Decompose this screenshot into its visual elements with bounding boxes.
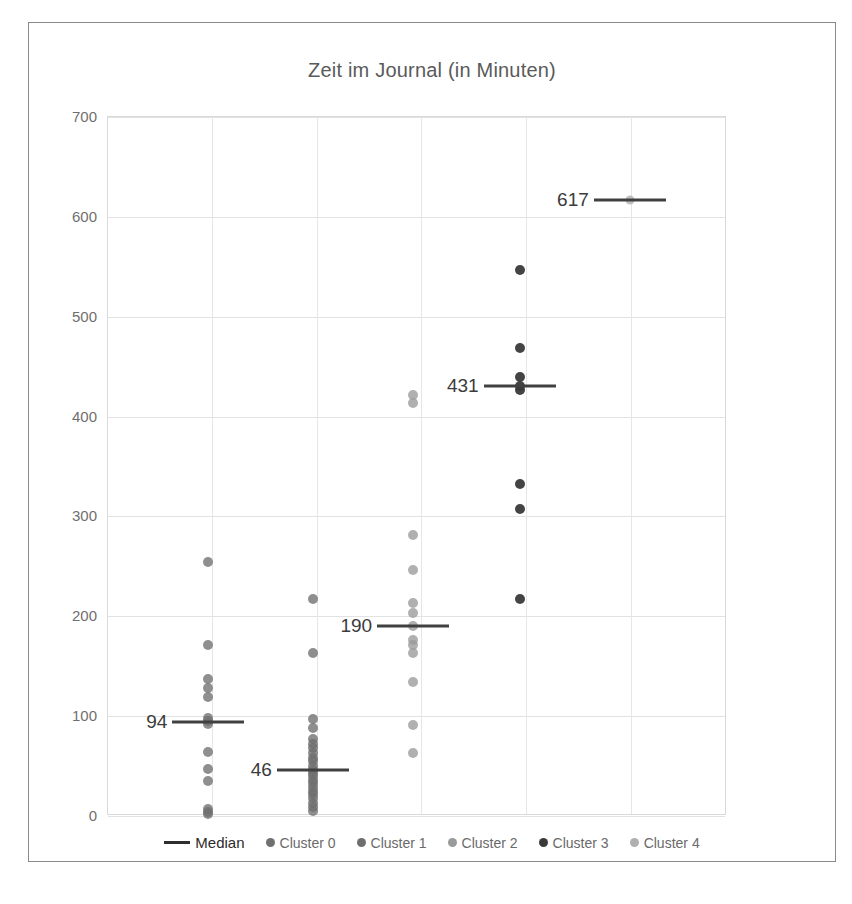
data-point <box>408 530 418 540</box>
data-point <box>408 608 418 618</box>
y-axis-tick-label: 100 <box>51 707 97 724</box>
legend-item-cluster-4[interactable]: Cluster 4 <box>630 835 700 851</box>
data-point <box>203 747 213 757</box>
y-gridline <box>108 417 725 418</box>
data-point <box>408 720 418 730</box>
y-axis-tick-label: 300 <box>51 507 97 524</box>
data-point <box>203 809 213 819</box>
legend-item-cluster-2[interactable]: Cluster 2 <box>448 835 518 851</box>
y-gridline <box>108 317 725 318</box>
legend-item-cluster-0[interactable]: Cluster 0 <box>266 835 336 851</box>
x-gridline <box>317 117 318 814</box>
legend-label-cluster-1: Cluster 1 <box>371 835 427 851</box>
median-bar <box>172 721 244 724</box>
data-point <box>203 776 213 786</box>
data-point <box>408 648 418 658</box>
y-axis-tick-label: 400 <box>51 407 97 424</box>
median-bar <box>594 198 666 201</box>
y-gridline <box>108 816 725 817</box>
data-point <box>515 479 525 489</box>
y-axis-tick-label: 500 <box>51 307 97 324</box>
y-axis-tick-label: 200 <box>51 607 97 624</box>
legend-label-cluster-4: Cluster 4 <box>644 835 700 851</box>
data-point <box>408 565 418 575</box>
cluster-dot-icon <box>357 838 366 847</box>
data-point <box>515 265 525 275</box>
data-point <box>408 748 418 758</box>
y-axis-tick-label: 0 <box>51 807 97 824</box>
median-bar <box>277 769 349 772</box>
legend-label-cluster-2: Cluster 2 <box>462 835 518 851</box>
data-point <box>308 594 318 604</box>
chart-title: Zeit im Journal (in Minuten) <box>29 59 835 82</box>
data-point <box>515 594 525 604</box>
plot-area: 9446190431617 <box>107 116 726 815</box>
legend-item-cluster-3[interactable]: Cluster 3 <box>539 835 609 851</box>
y-axis-tick-label: 600 <box>51 207 97 224</box>
data-point <box>308 806 318 816</box>
y-gridline <box>108 117 725 118</box>
legend-label-median: Median <box>195 834 244 851</box>
legend-label-cluster-0: Cluster 0 <box>280 835 336 851</box>
median-value-label: 94 <box>146 711 170 733</box>
cluster-dot-icon <box>266 838 275 847</box>
chart-legend: Median Cluster 0 Cluster 1 Cluster 2 Clu… <box>29 834 835 851</box>
legend-label-cluster-3: Cluster 3 <box>553 835 609 851</box>
data-point <box>408 398 418 408</box>
data-point <box>408 598 418 608</box>
legend-item-median[interactable]: Median <box>164 834 244 851</box>
data-point <box>408 677 418 687</box>
cluster-dot-icon <box>630 838 639 847</box>
median-bar <box>484 384 556 387</box>
median-line-icon <box>164 841 190 844</box>
x-gridline <box>631 117 632 814</box>
data-point <box>308 723 318 733</box>
data-point <box>515 343 525 353</box>
legend-item-cluster-1[interactable]: Cluster 1 <box>357 835 427 851</box>
data-point <box>203 764 213 774</box>
y-gridline <box>108 716 725 717</box>
y-gridline <box>108 217 725 218</box>
median-bar <box>377 625 449 628</box>
x-gridline <box>526 117 527 814</box>
data-point <box>203 557 213 567</box>
y-axis-tick-label: 700 <box>51 108 97 125</box>
data-point <box>203 640 213 650</box>
figure-page: Zeit im Journal (in Minuten) 01002003004… <box>0 0 852 904</box>
y-axis: 0100200300400500600700 <box>45 116 97 815</box>
figure-caption <box>30 872 830 902</box>
cluster-dot-icon <box>539 838 548 847</box>
data-point <box>515 504 525 514</box>
median-value-label: 431 <box>447 375 482 397</box>
y-gridline <box>108 516 725 517</box>
median-value-label: 190 <box>340 615 375 637</box>
figure-frame: Zeit im Journal (in Minuten) 01002003004… <box>28 22 836 862</box>
x-gridline <box>421 117 422 814</box>
median-value-label: 46 <box>251 759 275 781</box>
median-value-label: 617 <box>557 189 592 211</box>
x-gridline <box>212 117 213 814</box>
data-point <box>308 648 318 658</box>
cluster-dot-icon <box>448 838 457 847</box>
data-point <box>203 692 213 702</box>
